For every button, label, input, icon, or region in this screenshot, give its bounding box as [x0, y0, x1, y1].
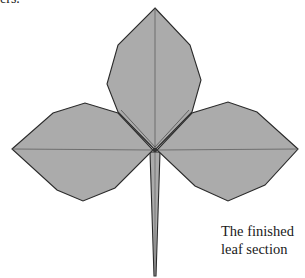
caption-line-1: The finished: [221, 222, 294, 240]
caption: The finished leaf section: [221, 222, 294, 258]
caption-line-2: leaf section: [221, 240, 294, 258]
